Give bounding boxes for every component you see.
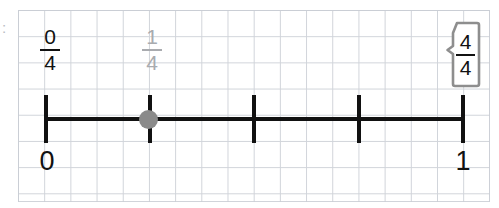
tag-denominator: 4 bbox=[460, 57, 472, 79]
fraction-label-0-4[interactable]: 0 4 bbox=[30, 26, 70, 74]
tick-mark-0-4[interactable] bbox=[44, 95, 48, 143]
fraction-numerator: 1 bbox=[132, 26, 172, 48]
fraction-numerator: 0 bbox=[30, 26, 70, 48]
fraction-denominator: 4 bbox=[30, 52, 70, 74]
tick-mark-3-4[interactable] bbox=[357, 95, 361, 143]
edge-artifact-icon: : bbox=[2, 22, 9, 46]
fraction-tag-4-4[interactable]: 4 4 bbox=[445, 21, 481, 88]
tag-fraction: 4 4 bbox=[445, 21, 481, 88]
fraction-label-1-4[interactable]: 1 4 bbox=[132, 26, 172, 74]
endpoint-label-zero: 0 bbox=[27, 146, 67, 176]
fraction-number-line-canvas: : 0 4 1 4 0 1 4 4 bbox=[0, 0, 499, 208]
tag-numerator: 4 bbox=[460, 31, 472, 53]
fraction-denominator: 4 bbox=[132, 52, 172, 74]
tick-mark-4-4[interactable] bbox=[461, 95, 465, 143]
tick-mark-2-4[interactable] bbox=[252, 95, 256, 143]
point-marker-dot[interactable] bbox=[139, 110, 158, 129]
endpoint-label-one: 1 bbox=[443, 146, 483, 176]
